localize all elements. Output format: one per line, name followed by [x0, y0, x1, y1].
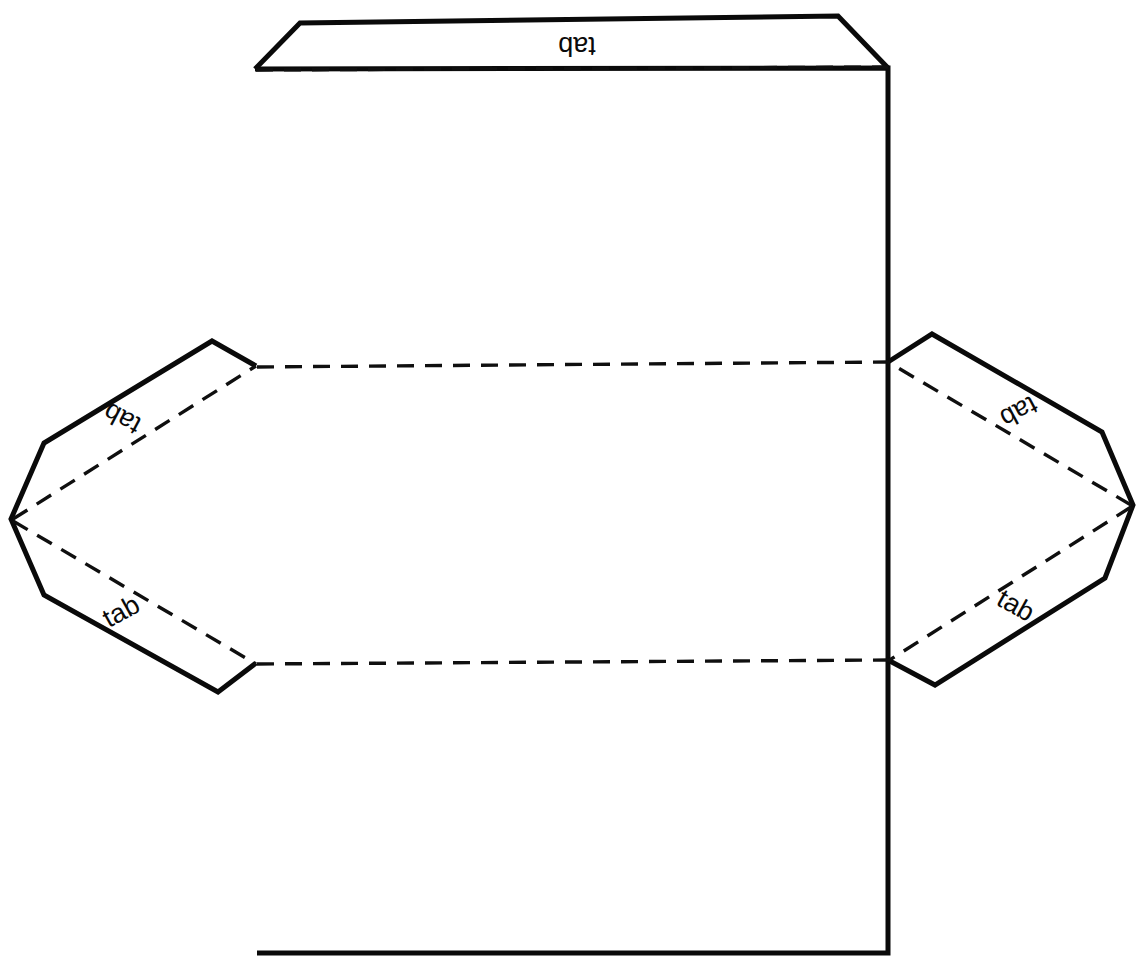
left-tab-fill — [11, 341, 256, 692]
right-tab-fill — [888, 334, 1133, 685]
main-body-panel-fill — [255, 68, 888, 953]
box-net-diagram: tabtabtabtabtab — [0, 0, 1144, 959]
net-drawing-canvas: tabtabtabtabtab — [0, 0, 1144, 959]
top-tab-label: tab — [558, 31, 596, 61]
